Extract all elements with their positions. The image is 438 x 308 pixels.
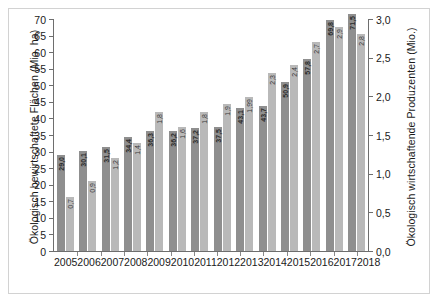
y-axis-left-tick-label: 30 [34,147,46,158]
x-axis-tick-label: 2013 [240,256,263,268]
bar-group: 36,31,8 [144,19,166,251]
bar-produzenten: 2,9 [335,27,343,251]
x-axis-tick [310,252,311,256]
bar-group: 57,82,7 [301,19,323,251]
bar-value-label: 0,9 [89,183,96,193]
bar-produzenten: 1,9 [223,104,231,251]
y-axis-left-tick-label: 20 [34,180,46,191]
y-axis-right-tick-label: 1,0 [376,169,391,180]
plot-area: 0510152025303540455055606570 0,00,51,01,… [53,19,369,252]
y-axis-right-tick-label: 2,5 [376,53,391,64]
bar-value-label: 1,99 [246,99,253,113]
bar-group: 37,51,9 [211,19,233,251]
x-axis-tick-text: 2014 [263,256,286,268]
bar-flaechen: 36,3 [146,131,154,251]
y-axis-right-tick [369,58,373,59]
bar-value-label: 36,3 [147,133,154,147]
y-axis-right-tick [369,96,373,97]
bar-value-label: 1,4 [133,145,140,155]
y-axis-left-tick-label: 0 [40,247,46,258]
x-axis-tick-label: 2006 [77,256,100,268]
bar-value-label: 37,2 [192,130,199,144]
x-axis-tick-label: 2007 [101,256,124,268]
bar-value-label: 57,8 [304,61,311,75]
bar-flaechen: 30,1 [79,151,87,251]
bar-value-label: 31,5 [102,149,109,163]
x-axis-tick-label: 2009 [147,256,170,268]
bar-value-label: 34,4 [124,139,131,153]
bar-groups: 29,00,730,10,931,51,234,41,436,31,836,21… [54,19,368,251]
x-axis-tick-text: 2016 [310,256,333,268]
bar-group: 34,41,4 [121,19,143,251]
y-axis-right-title: Ökologisch wirtschaftende Produzenten (M… [405,7,417,267]
y-axis-left-tick [49,152,53,153]
x-axis-tick [217,252,218,256]
y-axis-left-tick [49,85,53,86]
bar-value-label: 2,9 [335,29,342,39]
y-axis-left-tick [49,234,53,235]
bar-value-label: 71,5 [349,16,356,30]
x-axis-tick [194,252,195,256]
y-axis-left-tick [49,201,53,202]
bar-flaechen: 43,7 [259,106,267,251]
x-axis-tick-text: 2010 [171,256,194,268]
bar-flaechen: 57,8 [303,59,311,251]
bar-flaechen: 71,5 [348,14,356,251]
y-axis-right-tick-label: 1,5 [376,131,391,142]
x-axis-tick [171,252,172,256]
bar-value-label: 1,2 [111,160,118,170]
x-axis-tick-text: 2008 [124,256,147,268]
x-axis-category-labels: 2005200620072008200920102011201220132014… [54,256,368,268]
bar-group: 37,21,8 [189,19,211,251]
y-axis-left-tick [49,19,53,20]
y-axis-left-tick-label: 65 [34,31,46,42]
bar-value-label: 36,2 [169,133,176,147]
bar-value-label: 50,9 [281,84,288,98]
bar-flaechen: 37,5 [214,127,222,251]
y-axis-left-tick-label: 10 [34,213,46,224]
y-axis-left-tick-label: 60 [34,48,46,59]
x-axis-tick-text: 2007 [101,256,124,268]
y-axis-left-tick [49,52,53,53]
x-axis-tick-label: 2016 [310,256,333,268]
y-axis-left-tick-label: 40 [34,114,46,125]
bar-flaechen: 29,0 [57,155,65,251]
y-axis-left-tick-label: 50 [34,81,46,92]
y-axis-right-tick [369,135,373,136]
x-axis-tick-text: 2005 [54,256,77,268]
bar-produzenten: 0,7 [66,197,74,251]
bar-value-label: 30,1 [80,153,87,167]
y-axis-left-tick [49,185,53,186]
bar-produzenten: 1,99 [245,97,253,251]
x-axis-tick-label: 2015 [287,256,310,268]
y-axis-left-tick [49,135,53,136]
bar-produzenten: 1,2 [111,158,119,251]
bar-group: 36,21,6 [166,19,188,251]
bar-value-label: 37,5 [214,129,221,143]
x-axis-tick [263,252,264,256]
bar-group: 69,82,9 [323,19,345,251]
x-axis-tick-text: 2009 [147,256,170,268]
bar-flaechen: 37,2 [191,128,199,251]
bar-produzenten: 1,8 [200,112,208,251]
y-axis-left-tick-label: 5 [40,230,46,241]
bar-value-label: 2,3 [268,75,275,85]
bar-value-label: 29,0 [57,157,64,171]
bar-flaechen: 31,5 [102,147,110,251]
bar-produzenten: 2,3 [268,73,276,251]
x-axis-tick [287,252,288,256]
chart-figure: Ökologisch bewirtschaftete Flächen (Mio.… [0,0,438,308]
bar-produzenten: 2,8 [357,34,365,251]
x-axis-tick-label: 2018 [357,256,380,268]
bar-produzenten: 0,9 [88,181,96,251]
x-axis-tick-label: 2014 [263,256,286,268]
bar-value-label: 43,7 [259,108,266,122]
y-axis-right-tick [369,174,373,175]
x-axis-tick-text: 2018 [357,256,380,268]
bar-flaechen: 36,2 [169,131,177,251]
y-axis-right-tick [369,19,373,20]
y-axis-left-tick-label: 35 [34,131,46,142]
bar-flaechen: 34,4 [124,137,132,251]
bar-group: 30,10,9 [76,19,98,251]
x-axis-tick [147,252,148,256]
